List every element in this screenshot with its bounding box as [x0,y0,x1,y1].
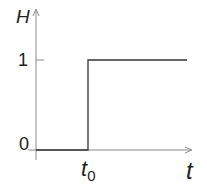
y-tick-label-1: 1 [18,50,28,71]
y-tick-label-0: 0 [19,134,29,155]
x-axis-label: t [186,157,193,185]
y-axis-label: H [16,6,30,28]
step-function-line [36,60,187,150]
x-tick-label-t0-subscript: 0 [87,167,95,184]
x-tick-label-t0: t0 [81,156,95,184]
step-function-chart [0,0,207,190]
